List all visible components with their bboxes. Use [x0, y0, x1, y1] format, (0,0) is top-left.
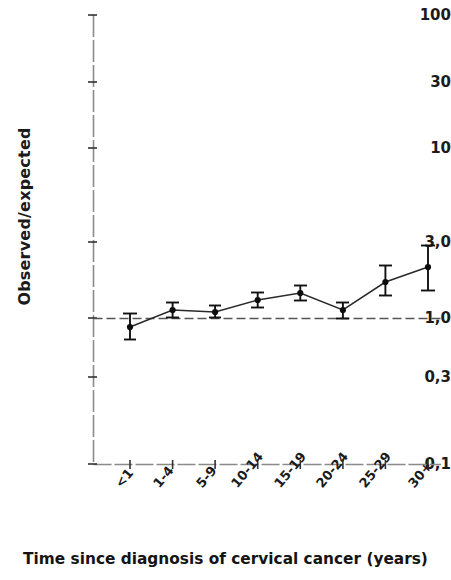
data-point-lt1: [127, 324, 133, 330]
error-bars: [123, 245, 435, 340]
data-point-10-14: [255, 297, 261, 303]
data-point-25-29: [382, 279, 388, 285]
data-point-15-19: [297, 290, 303, 296]
data-point-1-4: [170, 307, 176, 313]
data-point-30plus: [425, 264, 431, 270]
plot-area: [0, 0, 451, 580]
chart-figure: Observed/expected 100 30 10 3,0 1,0 0,3 …: [0, 0, 451, 580]
y-axis-ticks: [88, 15, 97, 464]
x-axis-title: Time since diagnosis of cervical cancer …: [16, 549, 435, 568]
data-point-5-9: [212, 309, 218, 315]
data-point-20-24: [340, 307, 346, 313]
